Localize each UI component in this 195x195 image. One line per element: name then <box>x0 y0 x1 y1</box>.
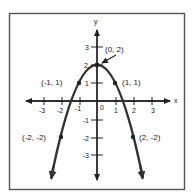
point-neg1-1 <box>77 81 81 85</box>
point-label: (0, 2) <box>105 45 124 54</box>
y-axis-label: y <box>94 18 98 26</box>
point-2-neg2 <box>131 135 135 139</box>
point-label: (2, -2) <box>139 133 161 142</box>
vertex-annotation-arrow <box>102 55 116 63</box>
y-tick-label: -2 <box>83 135 89 142</box>
x-axis-label: x <box>174 97 178 104</box>
x-tick-label: -1 <box>75 105 81 112</box>
y-tick-label: 1 <box>85 80 89 87</box>
x-tick-label: 2 <box>132 107 136 114</box>
point-1-1 <box>113 81 117 85</box>
x-tick-label: 0 <box>100 104 104 111</box>
x-tick-label: 3 <box>151 107 155 114</box>
x-axis: -3 -2 -1 0 1 2 3 x <box>26 97 178 114</box>
y-axis: 3 2 1 -1 -2 -3 y <box>83 18 103 180</box>
curve-arrow-left <box>52 166 54 178</box>
point-label: (-2, -2) <box>22 133 46 142</box>
x-tick-label: 1 <box>114 107 118 114</box>
point-neg2-neg2 <box>59 135 63 139</box>
point-label: (-1, 1) <box>41 78 63 87</box>
y-tick-label: -3 <box>83 152 89 159</box>
y-tick-label: 3 <box>85 44 89 51</box>
point-0-2 <box>95 63 100 68</box>
y-tick-label: 2 <box>84 62 88 69</box>
parabola-chart: -3 -2 -1 0 1 2 3 x 3 2 1 -1 -2 -3 <box>0 0 195 195</box>
x-tick-label: -3 <box>39 107 45 114</box>
x-tick-label: -2 <box>57 107 63 114</box>
y-tick-label: -1 <box>83 117 89 124</box>
curve-arrow-right <box>141 166 143 178</box>
point-label: (1, 1) <box>122 78 141 87</box>
